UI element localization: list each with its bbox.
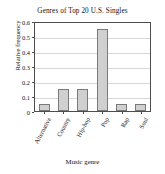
x-tick-mark: [83, 112, 84, 114]
bar-slot: [35, 23, 54, 111]
bar-slot: [112, 23, 131, 111]
bar-rap: [116, 104, 127, 112]
y-tick-mark: [32, 22, 34, 23]
y-tick-mark: [32, 37, 34, 38]
y-tick-label: 0.2: [0, 79, 30, 86]
bar-slot: [54, 23, 73, 111]
y-tick-label: 0: [0, 109, 30, 116]
y-tick-label: 0.6: [0, 19, 30, 26]
x-axis-label: Music genre: [0, 158, 165, 165]
bar-pop: [97, 29, 108, 112]
plot-area: [34, 22, 151, 112]
x-tick-mark: [122, 112, 123, 114]
y-axis-label: Relative frequency: [14, 1, 21, 91]
x-tick-mark: [44, 112, 45, 114]
y-tick-mark: [32, 67, 34, 68]
bar-slot: [131, 23, 150, 111]
y-tick-label: 0.3: [0, 64, 30, 71]
bar-country: [58, 89, 69, 112]
bar-slot: [93, 23, 112, 111]
x-tick-mark: [141, 112, 142, 114]
y-tick-label: 0.4: [0, 49, 30, 56]
bars-group: [35, 23, 150, 111]
y-tick-label: 0.1: [0, 94, 30, 101]
bar-soul: [135, 104, 146, 112]
chart-title: Genres of Top 20 U.S. Singles: [0, 7, 165, 15]
x-tick-mark: [102, 112, 103, 114]
bar-slot: [73, 23, 92, 111]
y-tick-mark: [32, 97, 34, 98]
x-tick-mark: [63, 112, 64, 114]
bar-alternative: [39, 104, 50, 112]
y-tick-label: 0.5: [0, 34, 30, 41]
y-tick-mark: [32, 52, 34, 53]
bar-chart: Genres of Top 20 U.S. Singles Relative f…: [0, 0, 165, 174]
bar-hip-hop: [77, 89, 88, 112]
y-tick-mark: [32, 112, 34, 113]
y-tick-mark: [32, 82, 34, 83]
